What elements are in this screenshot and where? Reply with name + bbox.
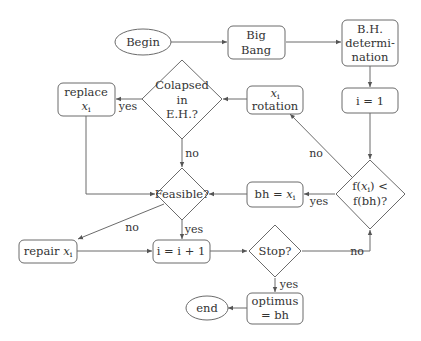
edge-replace-feasible [86, 116, 155, 194]
optimus-label-2: = bh [261, 308, 290, 322]
edge-compare-rotation [290, 114, 352, 177]
node-replace-xi[interactable]: replace xi [58, 83, 115, 116]
begin-label: Begin [126, 35, 160, 49]
colapsed-label-1: Colapsed [155, 78, 209, 92]
node-bh-determination[interactable]: B.H. determi- nation [342, 20, 398, 66]
node-stop-decision[interactable]: Stop? [249, 225, 301, 277]
i1-label: i = 1 [356, 94, 384, 108]
replace-label-1: replace [64, 85, 108, 99]
node-xi-rotation[interactable]: xi rotation [247, 86, 303, 114]
colapsed-no-label: no [185, 147, 199, 160]
increment-label: i = i + 1 [157, 244, 206, 258]
repair-label: repair xi [24, 244, 73, 259]
node-optimus[interactable]: optimus = bh [247, 293, 303, 324]
optimus-label-1: optimus [252, 294, 299, 308]
colapsed-label-2: in [176, 93, 188, 107]
bh-det-label-2: determi- [345, 36, 395, 50]
flowchart-canvas: Begin Big Bang B.H. determi- nation i = … [0, 0, 421, 341]
bh-det-label-1: B.H. [357, 22, 383, 36]
node-end[interactable]: end [186, 296, 228, 320]
node-increment[interactable]: i = i + 1 [153, 240, 210, 263]
node-feasible-decision[interactable]: Feasible? [155, 168, 210, 220]
compare-no-label: no [309, 147, 323, 160]
node-compare-decision[interactable]: f(xi) < f(bh)? [336, 160, 405, 229]
rotation-label-2: rotation [252, 99, 299, 113]
stop-label: Stop? [259, 244, 292, 258]
stop-no-label: no [350, 245, 364, 258]
feasible-label: Feasible? [155, 187, 210, 201]
compare-yes-label: yes [309, 195, 329, 208]
node-repair-xi[interactable]: repair xi [19, 240, 77, 263]
stop-yes-label: yes [279, 278, 299, 291]
compare-label-2: f(bh)? [353, 194, 387, 208]
big-bang-label-1: Big [246, 28, 266, 42]
bh-det-label-3: nation [352, 50, 389, 64]
edges [77, 42, 370, 308]
node-begin[interactable]: Begin [115, 29, 171, 55]
edge-feasible-repair [78, 204, 164, 239]
colapsed-yes-label: yes [118, 100, 138, 113]
node-i-equals-1[interactable]: i = 1 [342, 88, 398, 113]
big-bang-label-2: Bang [241, 43, 272, 57]
feasible-yes-label: yes [184, 223, 204, 236]
bh-xi-label: bh = xi [255, 187, 296, 202]
compare-label-1: f(xi) < [352, 179, 388, 194]
colapsed-label-3: E.H.? [166, 107, 198, 121]
node-big-bang[interactable]: Big Bang [228, 26, 285, 59]
end-label: end [196, 301, 218, 315]
node-colapsed-decision[interactable]: Colapsed in E.H.? [142, 60, 222, 139]
node-bh-equals-xi[interactable]: bh = xi [247, 182, 303, 207]
feasible-no-label: no [125, 221, 139, 234]
flowchart-svg: Begin Big Bang B.H. determi- nation i = … [0, 0, 421, 341]
